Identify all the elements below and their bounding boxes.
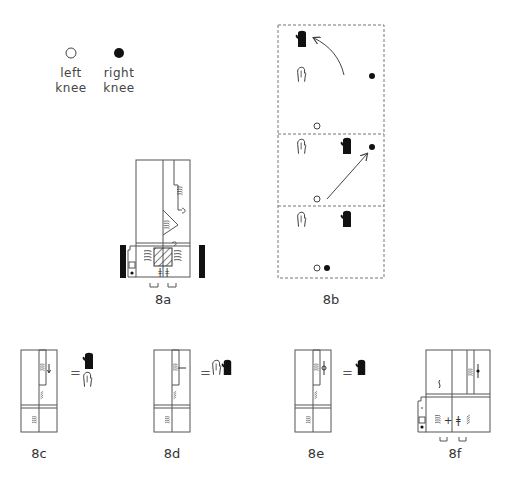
spring-icon [40, 364, 44, 371]
spring-icon [164, 221, 169, 229]
equals-sign: = [70, 365, 81, 380]
right-hand-icon [341, 138, 351, 154]
tab-outline [313, 350, 320, 385]
legend-right-line1: right [104, 66, 135, 80]
square-icon [419, 417, 425, 423]
panel-1 [296, 31, 375, 129]
spring-icon [174, 391, 177, 399]
spring-icon [315, 391, 318, 399]
spring-icon [173, 364, 177, 371]
arrow-curved [314, 38, 344, 75]
spring-icon [314, 364, 318, 371]
left-knee-dot [314, 265, 320, 271]
right-knee-dot [324, 265, 330, 271]
spring-icon [306, 417, 310, 424]
spring-icon [41, 391, 44, 399]
spring-icon [144, 251, 151, 261]
dot-icon [130, 271, 133, 274]
squiggle-icon [439, 380, 440, 388]
bracket-icon [440, 437, 447, 441]
figure-label-8f: 8f [449, 446, 462, 461]
figure-label-8c: 8c [31, 446, 46, 461]
left-hand-icon [84, 372, 92, 386]
legend: left knee right knee [55, 48, 134, 95]
right-black-bar [199, 245, 205, 278]
left-knee-dot [314, 123, 320, 129]
plus-icon: ǂ [165, 267, 170, 277]
dot-icon [420, 425, 423, 428]
spring-icon [174, 251, 181, 261]
equals-sign: = [200, 365, 211, 380]
panel-2 [298, 138, 375, 202]
figure-label-8d: 8d [164, 446, 181, 461]
panel-3 [298, 211, 351, 271]
tab-outline [172, 350, 179, 385]
equals-sign: = [342, 365, 353, 380]
figure-label-8a: 8a [155, 292, 171, 307]
square-icon [129, 262, 135, 268]
filled-circle-icon [114, 48, 124, 58]
spring-icon [165, 417, 169, 424]
left-hand-icon [298, 67, 306, 81]
left-knee-dot [314, 196, 320, 202]
left-hand-icon [298, 212, 306, 226]
right-hand-icon [341, 211, 351, 227]
legend-right-knee: right knee [103, 48, 134, 95]
right-hand-icon [296, 31, 306, 47]
open-circle-icon [66, 48, 76, 58]
right-hand-icon [222, 360, 232, 375]
hatched-block [154, 248, 172, 266]
tab-outline [39, 350, 46, 385]
right-knee-dot [369, 144, 375, 150]
legend-right-line2: knee [103, 81, 134, 95]
spring-icon [435, 415, 440, 423]
bracket-icon [459, 437, 466, 441]
legend-left-line2: knee [55, 81, 86, 95]
hook-icon [182, 208, 185, 213]
plus-icon: ǂ [158, 267, 163, 277]
diagram-canvas: left knee right knee ǂ ǂ [0, 0, 507, 488]
plus-icon: + [444, 415, 452, 426]
left-black-bar [120, 245, 126, 278]
legend-left-line1: left [60, 66, 81, 80]
figure-8d [154, 350, 190, 432]
figure-8c [21, 350, 57, 432]
figure-8a: ǂ ǂ [120, 160, 205, 287]
zig-line [163, 210, 178, 235]
spring-icon [468, 369, 472, 376]
right-hand-icon [356, 360, 366, 375]
plus-icon: ǂ [456, 415, 461, 426]
legend-left-knee: left knee [55, 48, 86, 95]
left-hand-icon [213, 360, 221, 374]
left-hand-icon [298, 139, 306, 153]
bracket-icon [168, 283, 176, 287]
figure-8b [278, 25, 384, 278]
figure-label-8e: 8e [308, 446, 324, 461]
dashed-frame [278, 25, 384, 278]
tab-outline [174, 160, 182, 210]
figure-label-8b: 8b [323, 292, 340, 307]
figure-8f: + ǂ [418, 350, 490, 441]
right-knee-dot [369, 73, 375, 79]
figure-8e [295, 350, 331, 432]
spring-icon [32, 417, 36, 424]
bracket-icon [150, 283, 158, 287]
spring-icon [467, 415, 470, 424]
right-hand-icon [83, 353, 93, 369]
arrow-straight [327, 154, 367, 199]
